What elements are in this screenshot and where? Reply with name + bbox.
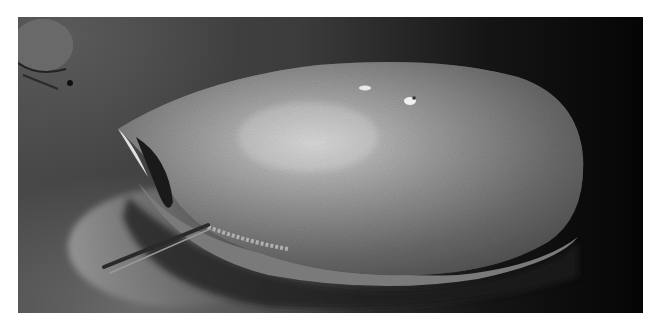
photo-illustration	[18, 17, 643, 313]
small-shell-top-left	[18, 19, 73, 89]
shell-spot	[359, 86, 371, 91]
shell-specular	[238, 102, 378, 172]
horseshoe-crab-photo	[18, 17, 643, 313]
shell-eye-pupil	[412, 96, 416, 100]
